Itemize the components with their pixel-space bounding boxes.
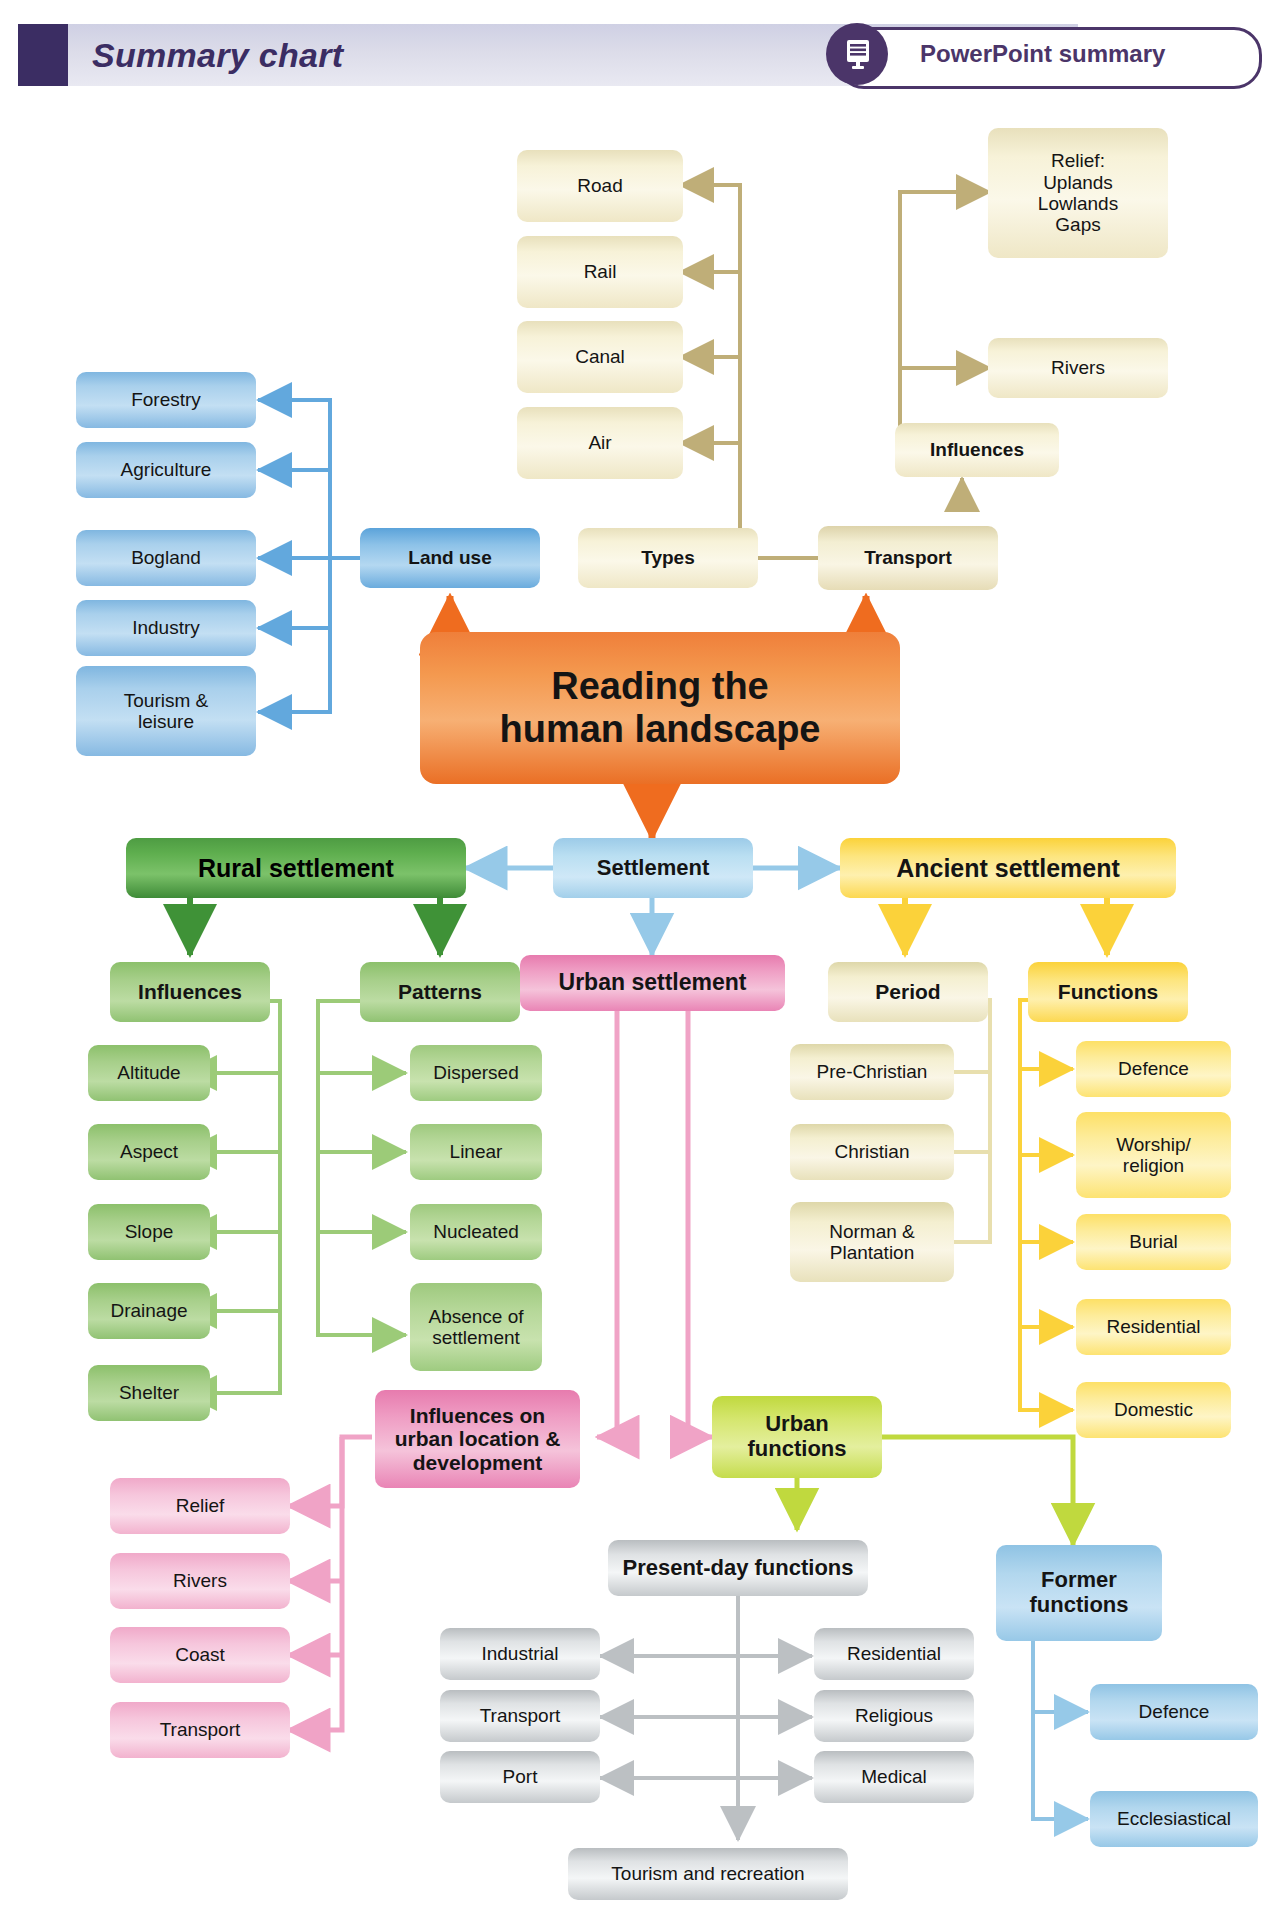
- node-defence-ancient[interactable]: Defence: [1076, 1041, 1231, 1097]
- node-tourism-and-recreation[interactable]: Tourism and recreation: [568, 1848, 848, 1900]
- node-settlement[interactable]: Settlement: [553, 838, 753, 898]
- node-dispersed[interactable]: Dispersed: [410, 1045, 542, 1101]
- node-slope[interactable]: Slope: [88, 1204, 210, 1260]
- node-urban-functions[interactable]: Urban functions: [712, 1396, 882, 1478]
- center-line-2: human landscape: [500, 708, 821, 751]
- node-relief-urban[interactable]: Relief: [110, 1478, 290, 1534]
- node-residential-ancient[interactable]: Residential: [1076, 1299, 1231, 1355]
- node-relief[interactable]: Relief: Uplands Lowlands Gaps: [988, 128, 1168, 258]
- node-air[interactable]: Air: [517, 407, 683, 479]
- node-defence-former[interactable]: Defence: [1090, 1684, 1258, 1740]
- node-shelter[interactable]: Shelter: [88, 1365, 210, 1421]
- presentation-screen-icon: [846, 39, 870, 71]
- node-nucleated[interactable]: Nucleated: [410, 1204, 542, 1260]
- node-industrial[interactable]: Industrial: [440, 1628, 600, 1680]
- node-medical[interactable]: Medical: [814, 1751, 974, 1803]
- node-rural-settlement[interactable]: Rural settlement: [126, 838, 466, 898]
- relief-item-lowlands: Lowlands: [1038, 193, 1118, 214]
- node-urban-settlement[interactable]: Urban settlement: [520, 955, 785, 1011]
- center-line-1: Reading the: [551, 665, 768, 708]
- node-influences-on-urban-location[interactable]: Influences on urban location & developme…: [375, 1390, 580, 1488]
- node-forestry[interactable]: Forestry: [76, 372, 256, 428]
- node-rivers-urban[interactable]: Rivers: [110, 1553, 290, 1609]
- header-accent-tab: [18, 24, 68, 86]
- node-functions[interactable]: Functions: [1028, 962, 1188, 1022]
- node-transport-urban[interactable]: Transport: [110, 1702, 290, 1758]
- node-linear[interactable]: Linear: [410, 1124, 542, 1180]
- powerpoint-summary-label: PowerPoint summary: [920, 40, 1165, 68]
- node-rivers-transport[interactable]: Rivers: [988, 338, 1168, 398]
- node-rail[interactable]: Rail: [517, 236, 683, 308]
- node-canal[interactable]: Canal: [517, 321, 683, 393]
- node-land-use[interactable]: Land use: [360, 528, 540, 588]
- node-worship-religion[interactable]: Worship/ religion: [1076, 1112, 1231, 1198]
- node-norman-plantation[interactable]: Norman & Plantation: [790, 1202, 954, 1282]
- page-title: Summary chart: [92, 36, 343, 75]
- node-ancient-settlement[interactable]: Ancient settlement: [840, 838, 1176, 898]
- node-transport[interactable]: Transport: [818, 526, 998, 590]
- node-road[interactable]: Road: [517, 150, 683, 222]
- node-transport-present[interactable]: Transport: [440, 1690, 600, 1742]
- relief-item-uplands: Uplands: [1043, 172, 1113, 193]
- node-aspect[interactable]: Aspect: [88, 1124, 210, 1180]
- node-center-reading-human-landscape[interactable]: Reading the human landscape: [420, 632, 900, 784]
- node-ecclesiastical[interactable]: Ecclesiastical: [1090, 1791, 1258, 1847]
- node-types[interactable]: Types: [578, 528, 758, 588]
- node-period[interactable]: Period: [828, 962, 988, 1022]
- node-present-day-functions[interactable]: Present-day functions: [608, 1540, 868, 1596]
- node-rural-influences[interactable]: Influences: [110, 962, 270, 1022]
- relief-title: Relief:: [1051, 150, 1105, 171]
- node-pre-christian[interactable]: Pre-Christian: [790, 1044, 954, 1100]
- node-religious[interactable]: Religious: [814, 1690, 974, 1742]
- node-christian[interactable]: Christian: [790, 1124, 954, 1180]
- node-altitude[interactable]: Altitude: [88, 1045, 210, 1101]
- node-bogland[interactable]: Bogland: [76, 530, 256, 586]
- node-burial[interactable]: Burial: [1076, 1214, 1231, 1270]
- node-former-functions[interactable]: Former functions: [996, 1545, 1162, 1641]
- summary-chart-page: Summary chart PowerPoint summary: [0, 0, 1285, 1931]
- page-header: Summary chart PowerPoint summary: [0, 24, 1285, 86]
- node-agriculture[interactable]: Agriculture: [76, 442, 256, 498]
- node-transport-influences[interactable]: Influences: [895, 423, 1059, 477]
- node-residential-present[interactable]: Residential: [814, 1628, 974, 1680]
- node-drainage[interactable]: Drainage: [88, 1283, 210, 1339]
- node-port[interactable]: Port: [440, 1751, 600, 1803]
- node-industry[interactable]: Industry: [76, 600, 256, 656]
- node-patterns[interactable]: Patterns: [360, 962, 520, 1022]
- node-domestic[interactable]: Domestic: [1076, 1382, 1231, 1438]
- relief-item-gaps: Gaps: [1055, 214, 1100, 235]
- node-coast[interactable]: Coast: [110, 1627, 290, 1683]
- node-absence-of-settlement[interactable]: Absence of settlement: [410, 1283, 542, 1371]
- node-tourism-leisure[interactable]: Tourism & leisure: [76, 666, 256, 756]
